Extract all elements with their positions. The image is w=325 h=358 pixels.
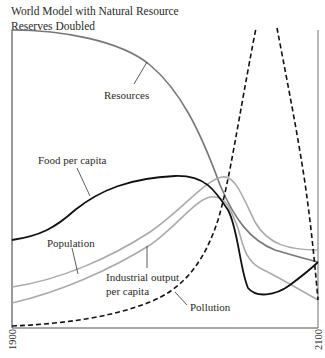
label-industrial-line-1: Industrial output xyxy=(106,271,179,283)
leader-pollution xyxy=(175,292,187,305)
label-resources: Resources xyxy=(104,89,149,101)
leader-resources xyxy=(134,62,147,84)
label-food-per-capita: Food per capita xyxy=(38,154,107,166)
x-tick-1900: 1900 xyxy=(7,329,18,350)
label-population: Population xyxy=(47,237,95,249)
series-resources xyxy=(12,30,318,262)
leader-food xyxy=(77,168,90,196)
x-tick-2100: 2100 xyxy=(313,329,324,350)
chart-plot: Resources Food per capita Population Ind… xyxy=(0,0,325,358)
label-industrial-line-2: per capita xyxy=(106,285,149,297)
series-industrial-output xyxy=(12,197,318,303)
label-pollution: Pollution xyxy=(190,301,231,313)
series-pollution-fall xyxy=(277,28,318,300)
